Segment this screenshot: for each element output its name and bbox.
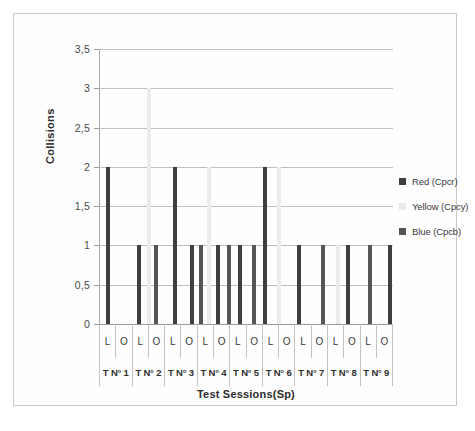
x-axis-sublabel: O — [312, 324, 328, 358]
x-axis-session-label: T N° 3 — [165, 358, 198, 386]
plot-inner: 00,511,522,533,5 — [99, 49, 393, 324]
chart-frame: Collisions 00,511,522,533,5 LOLOLOLOLOLO… — [13, 13, 457, 406]
gridline — [99, 49, 393, 50]
chart-bar — [173, 167, 177, 324]
y-tick-label: 3 — [84, 82, 90, 94]
x-axis-sublabel: O — [279, 324, 295, 358]
x-axis-session-label: T N° 5 — [230, 358, 263, 386]
legend-swatch-icon — [399, 228, 406, 235]
x-axis-sublabel: O — [344, 324, 360, 358]
chart-bar — [368, 245, 372, 324]
legend-label: Blue (Cpcb) — [412, 226, 461, 237]
x-axis-sublabel: O — [247, 324, 263, 358]
chart-bar — [321, 245, 325, 324]
x-axis-sublabel: L — [100, 324, 116, 358]
y-tick-label: 3,5 — [75, 43, 90, 55]
legend-item[interactable]: Yellow (Cpcy) — [399, 201, 475, 212]
chart-bar — [336, 245, 340, 324]
chart-bar — [199, 245, 203, 324]
x-axis-title: Test Sessions(Sp) — [99, 388, 393, 400]
x-axis-session-label: T N° 6 — [263, 358, 296, 386]
chart-bar — [388, 245, 392, 324]
chart-legend: Red (Cpcr)Yellow (Cpcy)Blue (Cpcb) — [399, 176, 475, 251]
x-axis-sublabel: L — [361, 324, 377, 358]
chart-bar — [106, 167, 110, 324]
x-axis-sublabel: O — [116, 324, 132, 358]
chart-bar — [207, 167, 211, 324]
x-axis-session-label: T N° 7 — [295, 358, 328, 386]
x-axis-sublabel: O — [149, 324, 165, 358]
plot-area: 00,511,522,533,5 — [99, 49, 393, 324]
chart-bar — [346, 245, 350, 324]
x-axis-session-label: T N° 1 — [100, 358, 133, 386]
y-tick-label: 2,5 — [75, 122, 90, 134]
x-axis-sublabel-row: LOLOLOLOLOLOLOLOLO — [99, 324, 393, 358]
x-axis-session-label: T N° 4 — [198, 358, 231, 386]
y-tick-mark — [94, 206, 99, 207]
x-axis-session-label: T N° 8 — [328, 358, 361, 386]
x-axis-sublabel: L — [230, 324, 246, 358]
x-axis-session-label: T N° 2 — [133, 358, 166, 386]
x-axis-sublabel: L — [295, 324, 311, 358]
chart-bar — [227, 245, 231, 324]
chart-bar — [154, 245, 158, 324]
chart-figure: Collisions 00,511,522,533,5 LOLOLOLOLOLO… — [0, 0, 475, 431]
legend-item[interactable]: Blue (Cpcb) — [399, 226, 475, 237]
y-tick-mark — [94, 285, 99, 286]
x-axis-sublabel: O — [377, 324, 393, 358]
x-axis-session-label: T N° 9 — [361, 358, 394, 386]
legend-swatch-icon — [399, 178, 406, 185]
legend-item[interactable]: Red (Cpcr) — [399, 176, 475, 187]
chart-bar — [238, 245, 242, 324]
gridline — [99, 206, 393, 207]
y-tick-mark — [94, 167, 99, 168]
x-axis-sublabel: L — [198, 324, 214, 358]
x-axis-sublabel: L — [133, 324, 149, 358]
chart-bar — [263, 167, 267, 324]
chart-bar — [147, 88, 151, 324]
x-axis-sublabel: L — [263, 324, 279, 358]
y-tick-label: 0,5 — [75, 279, 90, 291]
gridline — [99, 128, 393, 129]
y-tick-label: 1 — [84, 239, 90, 251]
y-tick-mark — [94, 88, 99, 89]
chart-bar — [216, 245, 220, 324]
chart-bar — [277, 167, 281, 324]
y-tick-mark — [94, 245, 99, 246]
y-tick-label: 0 — [84, 318, 90, 330]
x-axis-sublabel: O — [214, 324, 230, 358]
chart-bar — [252, 245, 256, 324]
legend-label: Yellow (Cpcy) — [412, 201, 468, 212]
y-tick-mark — [94, 49, 99, 50]
x-axis-session-row: T N° 1T N° 2T N° 3T N° 4T N° 5T N° 6T N°… — [99, 358, 393, 386]
y-axis-title: Collisions — [44, 108, 56, 164]
x-axis-sublabel: L — [165, 324, 181, 358]
chart-bar — [190, 245, 194, 324]
y-tick-mark — [94, 128, 99, 129]
x-axis-sublabel: O — [181, 324, 197, 358]
y-tick-label: 2 — [84, 161, 90, 173]
x-axis-sublabel: L — [328, 324, 344, 358]
legend-label: Red (Cpcr) — [412, 176, 457, 187]
chart-bar — [297, 245, 301, 324]
chart-bar — [137, 245, 141, 324]
gridline — [99, 88, 393, 89]
legend-swatch-icon — [399, 203, 406, 210]
y-tick-label: 1,5 — [75, 200, 90, 212]
gridline — [99, 167, 393, 168]
